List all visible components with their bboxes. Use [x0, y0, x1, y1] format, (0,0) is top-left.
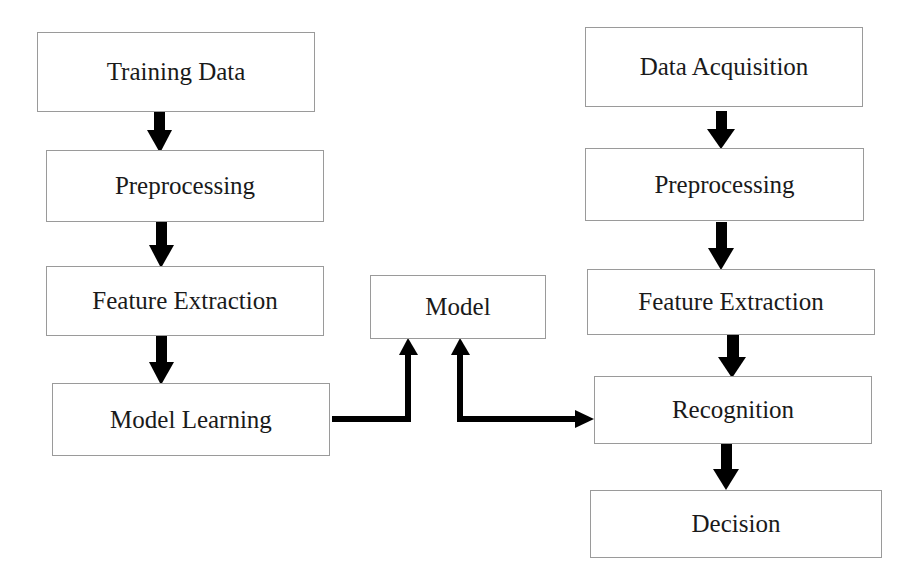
node-data-acquisition: Data Acquisition	[585, 27, 863, 107]
node-label: Preprocessing	[654, 171, 794, 199]
arrow-elbow-up-icon	[332, 338, 418, 419]
arrow-down-icon	[708, 222, 734, 270]
node-training-data: Training Data	[37, 32, 315, 112]
node-label: Feature Extraction	[638, 288, 823, 316]
node-label: Recognition	[672, 396, 794, 424]
node-label: Model Learning	[110, 406, 272, 434]
arrow-down-icon	[713, 444, 739, 490]
arrow-down-icon	[147, 112, 172, 153]
arrow-down-icon	[149, 336, 174, 385]
node-label: Data Acquisition	[640, 53, 809, 81]
node-rec-preprocessing: Preprocessing	[585, 148, 864, 221]
arrow-down-icon	[707, 111, 735, 149]
node-train-preprocessing: Preprocessing	[46, 150, 324, 222]
node-label: Model	[425, 293, 490, 321]
node-label: Preprocessing	[115, 172, 255, 200]
arrow-bidirectional-elbow-icon	[451, 338, 594, 428]
node-label: Decision	[692, 510, 781, 538]
arrow-down-icon	[718, 335, 746, 378]
arrow-down-icon	[149, 222, 174, 268]
node-model-learning: Model Learning	[52, 383, 330, 456]
node-model: Model	[370, 275, 546, 339]
node-label: Training Data	[107, 58, 246, 86]
node-rec-feature-extraction: Feature Extraction	[587, 269, 875, 335]
node-label: Feature Extraction	[92, 287, 277, 315]
node-decision: Decision	[590, 490, 882, 558]
node-train-feature-extraction: Feature Extraction	[46, 266, 324, 336]
node-recognition: Recognition	[594, 376, 872, 444]
